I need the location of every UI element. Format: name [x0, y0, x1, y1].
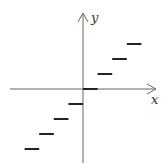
x-axis-label: x — [151, 92, 159, 107]
y-axis-label: y — [90, 10, 99, 25]
floor-function-chart: x y — [0, 0, 164, 165]
